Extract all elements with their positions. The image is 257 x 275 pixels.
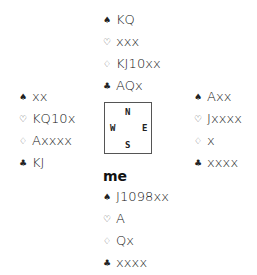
east-clubs-row: ♣ xxxx xyxy=(194,152,242,174)
west-spades: xx xyxy=(32,86,48,108)
compass-east: E xyxy=(142,123,147,133)
club-icon: ♣ xyxy=(194,152,207,174)
west-hearts: KQ10x xyxy=(32,108,76,130)
spade-icon: ♠ xyxy=(194,86,207,108)
spade-icon: ♠ xyxy=(103,186,116,208)
spade-icon: ♠ xyxy=(103,9,116,31)
heart-icon: ♡ xyxy=(103,208,116,230)
south-diamonds-row: ♢ Qx xyxy=(103,230,169,252)
compass-south: S xyxy=(125,140,130,150)
south-hand-label: me xyxy=(103,166,169,186)
heart-icon: ♡ xyxy=(19,108,32,130)
compass-north: N xyxy=(125,107,130,117)
east-hearts-row: ♡ Jxxxx xyxy=(194,108,242,130)
spade-icon: ♠ xyxy=(19,86,32,108)
south-clubs: xxxx xyxy=(116,252,147,274)
north-hearts-row: ♡ xxx xyxy=(103,31,161,53)
heart-icon: ♡ xyxy=(103,31,116,53)
diamond-icon: ♢ xyxy=(103,53,116,75)
compass-box: N W E S xyxy=(104,102,152,154)
east-diamonds-row: ♢ x xyxy=(194,130,242,152)
south-spades: J1098xx xyxy=(116,186,169,208)
club-icon: ♣ xyxy=(103,75,116,97)
west-clubs-row: ♣ KJ xyxy=(19,152,76,174)
south-hearts: A xyxy=(116,208,125,230)
east-diamonds: x xyxy=(207,130,215,152)
north-hearts: xxx xyxy=(116,31,139,53)
west-spades-row: ♠ xx xyxy=(19,86,76,108)
west-clubs: KJ xyxy=(32,152,45,174)
club-icon: ♣ xyxy=(19,152,32,174)
diamond-icon: ♢ xyxy=(103,230,116,252)
west-hand: ♠ xx ♡ KQ10x ♢ Axxxx ♣ KJ xyxy=(19,86,76,174)
west-hearts-row: ♡ KQ10x xyxy=(19,108,76,130)
north-diamonds: KJ10xx xyxy=(116,53,161,75)
north-spades: KQ xyxy=(116,9,135,31)
east-spades: Axx xyxy=(207,86,232,108)
west-diamonds: Axxxx xyxy=(32,130,72,152)
diamond-icon: ♢ xyxy=(19,130,32,152)
south-clubs-row: ♣ xxxx xyxy=(103,252,169,274)
south-spades-row: ♠ J1098xx xyxy=(103,186,169,208)
east-spades-row: ♠ Axx xyxy=(194,86,242,108)
east-hand: ♠ Axx ♡ Jxxxx ♢ x ♣ xxxx xyxy=(194,86,242,174)
north-diamonds-row: ♢ KJ10xx xyxy=(103,53,161,75)
east-hearts: Jxxxx xyxy=(207,108,242,130)
diamond-icon: ♢ xyxy=(194,130,207,152)
south-hand: me ♠ J1098xx ♡ A ♢ Qx ♣ xxxx xyxy=(103,166,169,274)
west-diamonds-row: ♢ Axxxx xyxy=(19,130,76,152)
north-hand: ♠ KQ ♡ xxx ♢ KJ10xx ♣ AQx xyxy=(103,9,161,97)
north-clubs-row: ♣ AQx xyxy=(103,75,161,97)
club-icon: ♣ xyxy=(103,252,116,274)
south-diamonds: Qx xyxy=(116,230,134,252)
north-spades-row: ♠ KQ xyxy=(103,9,161,31)
north-clubs: AQx xyxy=(116,75,143,97)
east-clubs: xxxx xyxy=(207,152,238,174)
heart-icon: ♡ xyxy=(194,108,207,130)
compass-west: W xyxy=(110,123,115,133)
south-hearts-row: ♡ A xyxy=(103,208,169,230)
